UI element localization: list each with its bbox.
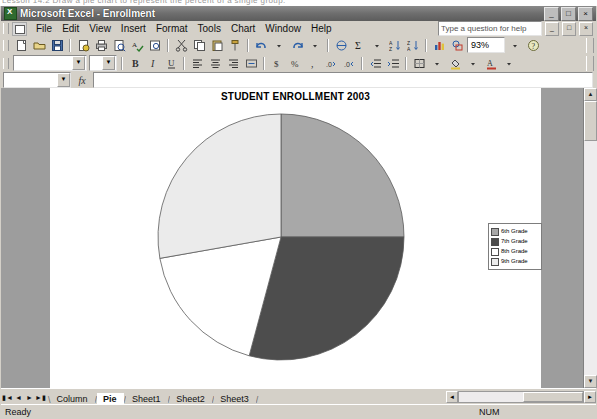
scroll-right-button[interactable]: ► [584, 391, 596, 403]
menu-item-window[interactable]: Window [260, 22, 306, 35]
standard-toolbar-overflow[interactable] [586, 38, 594, 53]
print-icon[interactable] [93, 38, 109, 53]
sort-descending-icon[interactable]: ZA [405, 38, 421, 53]
font-color-dropdown-icon[interactable] [501, 56, 517, 71]
standard-toolbar-grip[interactable] [3, 40, 9, 51]
vertical-scroll-thumb[interactable] [584, 101, 597, 141]
borders-icon[interactable] [411, 56, 427, 71]
horizontal-scrollbar[interactable]: ◄ ► [446, 391, 596, 403]
name-box-dropdown-icon[interactable]: ▼ [57, 73, 70, 87]
font-size-dropdown-icon[interactable]: ▼ [102, 56, 115, 70]
save-icon[interactable] [49, 38, 65, 53]
format-painter-icon[interactable] [227, 38, 243, 53]
print-preview-icon[interactable] [111, 38, 127, 53]
document-restore-button[interactable]: □ [562, 22, 576, 36]
insert-function-icon[interactable]: fx [71, 75, 93, 86]
menu-item-view[interactable]: View [84, 22, 116, 35]
drawing-icon[interactable] [449, 38, 465, 53]
ask-question-input[interactable]: Type a question for help [438, 21, 542, 36]
align-left-icon[interactable] [189, 56, 205, 71]
scroll-down-button[interactable]: ▼ [584, 375, 597, 388]
chart-sheet-page[interactable]: STUDENT ENROLLMENT 2003 6th Grade7th Gra… [50, 88, 541, 388]
vertical-scroll-track[interactable] [584, 101, 597, 375]
undo-icon[interactable] [253, 38, 269, 53]
name-box[interactable]: ▼ [3, 72, 71, 88]
percent-icon[interactable]: % [287, 56, 303, 71]
research-icon[interactable] [147, 38, 163, 53]
spelling-icon[interactable]: A [129, 38, 145, 53]
chart-legend[interactable]: 6th Grade7th Grade8th Grade9th Grade [488, 223, 542, 270]
menu-bar-grip[interactable] [3, 23, 9, 34]
formula-input[interactable] [93, 72, 593, 88]
menu-item-help[interactable]: Help [306, 22, 337, 35]
sheet-tab-pie[interactable]: Pie [97, 393, 124, 405]
decrease-decimal-icon[interactable]: .0 [341, 56, 357, 71]
sort-ascending-icon[interactable]: AZ [387, 38, 403, 53]
autosum-icon[interactable]: Σ [351, 38, 367, 53]
undo-dropdown-icon[interactable] [271, 38, 287, 53]
menu-item-tools[interactable]: Tools [193, 22, 226, 35]
close-button[interactable]: × [578, 7, 593, 21]
fill-color-icon[interactable] [447, 56, 463, 71]
autosum-dropdown-icon[interactable] [369, 38, 385, 53]
previous-sheet-button[interactable]: ◄ [13, 391, 24, 404]
next-sheet-button[interactable]: ► [24, 391, 35, 404]
copy-icon[interactable] [191, 38, 207, 53]
align-right-icon[interactable] [225, 56, 241, 71]
legend-entry[interactable]: 8th Grade [491, 247, 539, 256]
fill-color-dropdown-icon[interactable] [465, 56, 481, 71]
underline-icon[interactable]: U [163, 56, 179, 71]
redo-icon[interactable] [289, 38, 305, 53]
menu-item-insert[interactable]: Insert [116, 22, 151, 35]
pie-chart-plot-area[interactable] [156, 112, 406, 362]
document-control-icon[interactable] [12, 22, 27, 36]
paste-icon[interactable] [209, 38, 225, 53]
restore-button[interactable]: □ [561, 7, 576, 21]
decrease-indent-icon[interactable] [367, 56, 383, 71]
redo-dropdown-icon[interactable] [307, 38, 323, 53]
font-name-combo[interactable]: ▼ [13, 55, 87, 71]
menu-item-chart[interactable]: Chart [226, 22, 260, 35]
currency-icon[interactable]: $ [269, 56, 285, 71]
scroll-left-button[interactable]: ◄ [446, 391, 458, 403]
sheet-tab-sheet1[interactable]: Sheet1 [126, 393, 168, 405]
font-color-icon[interactable]: A [483, 56, 499, 71]
zoom-combo[interactable]: 93% [467, 37, 505, 53]
bold-icon[interactable]: B [127, 56, 143, 71]
chart-wizard-icon[interactable] [431, 38, 447, 53]
permission-icon[interactable] [75, 38, 91, 53]
font-size-combo[interactable]: ▼ [89, 55, 117, 71]
borders-dropdown-icon[interactable] [429, 56, 445, 71]
pie-slice[interactable] [158, 114, 281, 258]
italic-icon[interactable]: I [145, 56, 161, 71]
zoom-dropdown-icon[interactable] [507, 38, 523, 53]
horizontal-scroll-track[interactable] [458, 391, 584, 403]
comma-style-icon[interactable]: , [305, 56, 321, 71]
legend-entry[interactable]: 7th Grade [491, 237, 539, 246]
formatting-toolbar-overflow[interactable] [586, 56, 594, 71]
menu-item-edit[interactable]: Edit [57, 22, 84, 35]
align-center-icon[interactable] [207, 56, 223, 71]
new-icon[interactable] [13, 38, 29, 53]
help-icon[interactable]: ? [525, 38, 541, 53]
legend-entry[interactable]: 9th Grade [491, 257, 539, 266]
sheet-tab-sheet3[interactable]: Sheet3 [214, 393, 256, 405]
merge-and-center-icon[interactable] [243, 56, 259, 71]
first-sheet-button[interactable]: ▮◄ [2, 391, 13, 404]
sheet-tab-column[interactable]: Column [51, 393, 95, 405]
increase-indent-icon[interactable] [385, 56, 401, 71]
minimize-button[interactable]: _ [544, 7, 559, 21]
formatting-toolbar-grip[interactable] [3, 58, 9, 69]
last-sheet-button[interactable]: ►▮ [35, 391, 46, 404]
scroll-up-button[interactable]: ▲ [584, 88, 597, 101]
sheet-tab-sheet2[interactable]: Sheet2 [170, 393, 212, 405]
menu-item-format[interactable]: Format [151, 22, 193, 35]
legend-entry[interactable]: 6th Grade [491, 227, 539, 236]
font-name-dropdown-icon[interactable]: ▼ [72, 56, 85, 70]
open-icon[interactable] [31, 38, 47, 53]
vertical-scrollbar[interactable]: ▲ ▼ [583, 88, 597, 388]
document-minimize-button[interactable]: _ [545, 22, 559, 36]
hyperlink-icon[interactable] [333, 38, 349, 53]
increase-decimal-icon[interactable]: .0 [323, 56, 339, 71]
document-close-button[interactable]: × [579, 22, 593, 36]
